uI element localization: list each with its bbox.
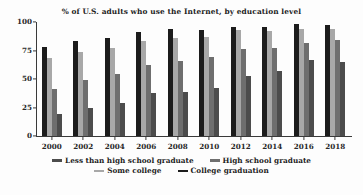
x-axis-tick-mark [177, 136, 178, 140]
bar-group: 2016 [288, 22, 320, 136]
legend-item[interactable]: College graduation [178, 167, 269, 174]
legend-swatch-icon [52, 159, 62, 161]
bar-group: 2012 [225, 22, 257, 136]
bar-group: 2014 [257, 22, 289, 136]
legend-swatch-icon [210, 159, 220, 161]
bar [277, 71, 282, 136]
legend-item[interactable]: Less than high school graduate [52, 157, 194, 164]
x-axis-tick-label: 2010 [199, 143, 219, 150]
x-axis-tick-label: 2016 [294, 143, 314, 150]
x-axis-tick-mark [209, 136, 210, 140]
bar [88, 108, 93, 137]
x-axis-tick-label: 2008 [168, 143, 188, 150]
bar-group: 2010 [194, 22, 226, 136]
bar [57, 114, 62, 136]
x-axis-tick-label: 2004 [105, 143, 125, 150]
chart-legend: Less than high school graduateHigh schoo… [0, 157, 363, 178]
legend-label: Less than high school graduate [65, 157, 194, 164]
bar [151, 93, 156, 136]
legend-swatch-icon [94, 170, 104, 172]
x-axis-tick-mark [303, 136, 304, 140]
x-axis-tick-label: 2012 [231, 143, 251, 150]
chart-title: % of U.S. adults who use the Internet, b… [0, 7, 363, 16]
legend-label: High school graduate [223, 157, 311, 164]
legend-item[interactable]: High school graduate [210, 157, 311, 164]
x-axis-tick-mark [83, 136, 84, 140]
legend-row: Less than high school graduateHigh schoo… [0, 157, 363, 164]
x-axis-tick-label: 2018 [325, 143, 345, 150]
bar-group: 2008 [162, 22, 194, 136]
x-axis-tick-label: 2002 [73, 143, 93, 150]
plot-area: 0255075100 20002002200420062008201020122… [36, 22, 351, 136]
bar-group: 2006 [131, 22, 163, 136]
x-axis-tick-mark [272, 136, 273, 140]
bar-group: 2018 [320, 22, 352, 136]
x-axis-tick-mark [114, 136, 115, 140]
x-axis-tick-label: 2000 [42, 143, 62, 150]
bar [340, 62, 345, 136]
x-axis-tick-mark [146, 136, 147, 140]
bar-group: 2004 [99, 22, 131, 136]
bar [246, 76, 251, 136]
bar-groups: 2000200220042006200820102012201420162018 [36, 22, 351, 136]
legend-row: Some collegeCollege graduation [0, 167, 363, 174]
legend-label: College graduation [191, 167, 269, 174]
x-axis-tick-label: 2014 [262, 143, 282, 150]
x-axis-tick-label: 2006 [136, 143, 156, 150]
legend-label: Some college [107, 167, 161, 174]
x-axis-tick-mark [240, 136, 241, 140]
x-axis-tick-mark [51, 136, 52, 140]
bar [183, 92, 188, 136]
bar-group: 2000 [36, 22, 68, 136]
bar [309, 60, 314, 136]
legend-swatch-icon [178, 170, 188, 172]
chart-container: % of U.S. adults who use the Internet, b… [0, 0, 363, 195]
legend-item[interactable]: Some college [94, 167, 161, 174]
bar [120, 103, 125, 136]
bar-group: 2002 [68, 22, 100, 136]
x-axis-tick-mark [335, 136, 336, 140]
bar [214, 88, 219, 136]
